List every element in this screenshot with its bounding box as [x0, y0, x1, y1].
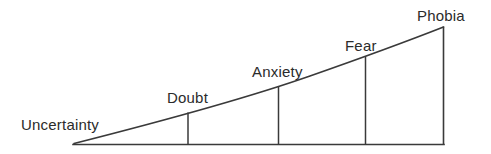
escalation-diagram: Uncertainty Doubt Anxiety Fear Phobia	[0, 0, 491, 154]
stage-label-phobia: Phobia	[417, 8, 465, 23]
stage-label-fear: Fear	[345, 38, 377, 53]
escalation-curve	[74, 27, 444, 144]
stage-label-anxiety: Anxiety	[252, 64, 303, 79]
stage-label-uncertainty: Uncertainty	[21, 117, 99, 132]
stage-label-doubt: Doubt	[167, 90, 208, 105]
